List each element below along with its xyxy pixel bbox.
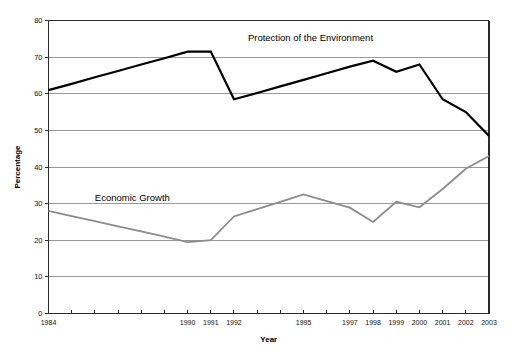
x-axis-tick-label: 2001 <box>435 319 451 326</box>
x-axis-title: Year <box>260 335 277 344</box>
y-axis-title: Percentage <box>13 145 22 189</box>
x-axis-tick-label: 2000 <box>412 319 428 326</box>
x-axis-tick-label: 1991 <box>203 319 219 326</box>
x-axis-tick-label: 1995 <box>296 319 312 326</box>
x-axis-tick-label: 2003 <box>481 319 497 326</box>
x-axis-tick-label: 1997 <box>342 319 358 326</box>
y-axis-tick-labels: 80706050403020100 <box>34 16 42 318</box>
x-axis-tick-label: 1990 <box>180 319 196 326</box>
x-axis-tick-label: 2002 <box>458 319 474 326</box>
chart-container: 80706050403020100 1984199019911992199519… <box>0 0 513 360</box>
y-axis-tick-label: 0 <box>38 309 42 318</box>
y-axis-tick-label: 30 <box>34 199 42 208</box>
y-axis-tick-label: 20 <box>34 236 42 245</box>
y-axis-tick-label: 50 <box>34 126 42 135</box>
y-axis-tick-label: 10 <box>34 272 42 281</box>
x-axis-tick-label: 1984 <box>41 319 57 326</box>
line-chart: 80706050403020100 1984199019911992199519… <box>0 0 513 360</box>
y-axis-tick-label: 60 <box>34 89 42 98</box>
x-axis-tick-label: 1992 <box>226 319 242 326</box>
y-axis-tick-label: 40 <box>34 163 42 172</box>
series-label-economic-growth: Economic Growth <box>95 192 170 203</box>
series-label-environment: Protection of the Environment <box>248 32 374 43</box>
y-axis-tick-label: 70 <box>34 53 42 62</box>
chart-background <box>0 0 513 360</box>
x-axis-tick-label: 1999 <box>388 319 404 326</box>
x-axis-tick-label: 1998 <box>365 319 381 326</box>
y-axis-tick-label: 80 <box>34 16 42 25</box>
